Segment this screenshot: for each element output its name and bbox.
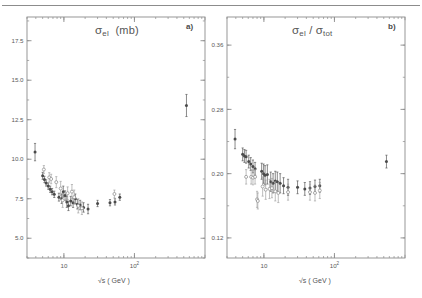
- svg-text:10: 10: [60, 262, 67, 269]
- panel-a-plot-canvas: 101025.07.510.012.515.017.5: [0, 0, 211, 298]
- svg-text:10: 10: [260, 262, 267, 269]
- panel-a-title: σel (mb): [95, 24, 139, 38]
- panel-b-plot-canvas: 101020.120.200.280.36: [211, 0, 422, 298]
- figure-root: 101025.07.510.012.515.017.5 σel (mb) a) …: [0, 0, 422, 298]
- svg-text:0.36: 0.36: [211, 41, 224, 48]
- svg-text:0.20: 0.20: [211, 170, 224, 177]
- panel-a-xaxis-label: √s ( GeV ): [98, 277, 130, 284]
- panel-b-title: σel / σtot: [292, 24, 332, 38]
- svg-text:7.5: 7.5: [15, 195, 24, 202]
- svg-text:15.0: 15.0: [11, 76, 24, 83]
- svg-text:10.0: 10.0: [11, 155, 24, 162]
- svg-text:12.5: 12.5: [11, 116, 24, 123]
- panel-b-xaxis-label: √s ( GeV ): [299, 277, 331, 284]
- panel-a-elastic-cross-section: 101025.07.510.012.515.017.5: [0, 0, 211, 298]
- panel-b-label: b): [388, 22, 396, 31]
- svg-text:102: 102: [130, 261, 140, 268]
- svg-text:102: 102: [330, 261, 340, 268]
- svg-text:0.12: 0.12: [211, 234, 224, 241]
- svg-text:17.5: 17.5: [11, 37, 24, 44]
- panel-b-elastic-to-total-ratio: 101020.120.200.280.36: [211, 0, 422, 298]
- svg-text:5.0: 5.0: [15, 234, 24, 241]
- svg-text:0.28: 0.28: [211, 106, 224, 113]
- panel-a-label: a): [186, 22, 193, 31]
